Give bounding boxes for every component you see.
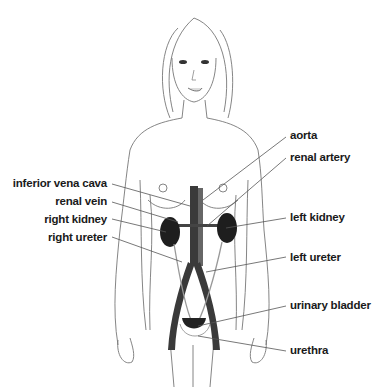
face-features <box>179 60 209 91</box>
anatomy-illustration <box>0 0 387 387</box>
label-right-ureter: right ureter <box>48 231 107 244</box>
label-left-ureter: left ureter <box>290 251 341 264</box>
label-inferior-vena-cava: inferior vena cava <box>13 177 107 190</box>
label-aorta: aorta <box>290 129 317 142</box>
label-urinary-bladder: urinary bladder <box>290 299 371 312</box>
label-left-kidney: left kidney <box>290 211 345 224</box>
label-renal-artery: renal artery <box>290 151 350 164</box>
label-urethra: urethra <box>290 344 328 357</box>
label-renal-vein: renal vein <box>55 195 107 208</box>
urinary-bladder-shape <box>182 318 206 329</box>
label-right-kidney: right kidney <box>44 213 107 226</box>
